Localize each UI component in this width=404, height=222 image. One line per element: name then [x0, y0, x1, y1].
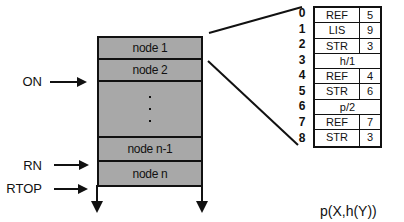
node-expansion-table: REF5 LIS9 STR3 h/1 REF4 STR6 p/2 REF7 ST…: [313, 6, 382, 148]
cell-tag: REF: [315, 8, 359, 22]
table-row: REF7: [315, 115, 380, 130]
cell-tag: STR: [315, 39, 359, 53]
row-index: 0: [296, 6, 308, 20]
row-index: 5: [296, 84, 308, 98]
table-row: h/1: [315, 54, 380, 69]
cell-tag: STR: [315, 84, 359, 98]
table-row: STR3: [315, 39, 380, 54]
cell-value: 5: [359, 8, 380, 22]
cell-tag: REF: [315, 69, 359, 83]
table-row: REF5: [315, 8, 380, 23]
row-index: 3: [296, 53, 308, 67]
table-row: STR3: [315, 130, 380, 145]
row-index: 8: [296, 131, 308, 145]
cell-value: 4: [359, 69, 380, 83]
cell-value: 3: [359, 39, 380, 53]
cell-value: 6: [359, 84, 380, 98]
cell-tag: STR: [315, 130, 359, 145]
term-caption: p(X,h(Y)): [320, 203, 377, 219]
row-index: 6: [296, 99, 308, 113]
table-row: STR6: [315, 84, 380, 99]
cell-tag: REF: [315, 115, 359, 129]
row-index: 7: [296, 115, 308, 129]
row-index: 4: [296, 68, 308, 82]
cell-value: 3: [359, 130, 380, 145]
row-index: 2: [296, 37, 308, 51]
row-index: 1: [296, 22, 308, 36]
cell-value: 9: [359, 23, 380, 37]
cell-value: 7: [359, 115, 380, 129]
cell-tag: LIS: [315, 23, 359, 37]
table-row: LIS9: [315, 23, 380, 38]
cell-functor: p/2: [315, 100, 380, 114]
table-row: REF4: [315, 69, 380, 84]
table-row: p/2: [315, 100, 380, 115]
cell-functor: h/1: [315, 54, 380, 68]
